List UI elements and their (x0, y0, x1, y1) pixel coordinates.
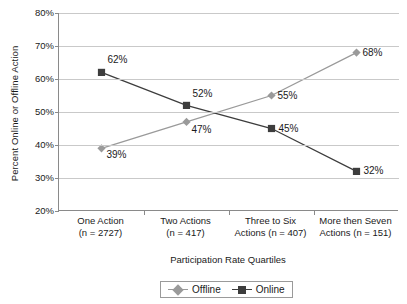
data-point-label: 52% (193, 88, 213, 99)
gridline (59, 13, 399, 14)
gridline (59, 79, 399, 80)
series-line-offline (102, 53, 357, 149)
x-category-label: One Action(n = 2727) (58, 215, 143, 251)
x-axis-category-labels: One Action(n = 2727)Two Actions(n = 417)… (58, 215, 398, 251)
y-tick-label: 30% (18, 173, 54, 183)
legend-marker (238, 286, 246, 294)
x-category-label-line1: Three to Six (245, 215, 296, 226)
y-tick-label: 70% (18, 41, 54, 51)
data-point-label: 32% (364, 165, 384, 176)
series-line-online (102, 72, 357, 171)
legend-entry-online[interactable]: Online (232, 284, 285, 295)
marker-diamond (352, 49, 360, 57)
legend-label: Online (256, 284, 285, 295)
y-tick-label: 80% (18, 8, 54, 18)
legend-swatch-diamond-icon (168, 285, 188, 295)
gridline (59, 112, 399, 113)
y-tickmark (55, 112, 59, 113)
y-tick-label: 20% (18, 206, 54, 216)
marker-square (268, 125, 275, 132)
data-point-label: 39% (107, 149, 127, 160)
gridline (59, 178, 399, 179)
legend-marker (172, 284, 183, 295)
y-tick-label: 60% (18, 74, 54, 84)
x-category-label-line2: Actions (n = 407) (228, 227, 313, 239)
x-category-label-line1: More then Seven (319, 215, 391, 226)
chart-legend: OfflineOnline (160, 281, 293, 298)
legend-swatch-square-icon (232, 285, 252, 295)
x-category-label-line1: One Action (77, 215, 123, 226)
legend-label: Offline (192, 284, 221, 295)
y-axis-tick-labels: 20%30%40%50%60%70%80% (16, 0, 54, 304)
y-tickmark (55, 145, 59, 146)
y-tick-label: 50% (18, 107, 54, 117)
x-category-label-line2: (n = 417) (143, 227, 228, 239)
marker-square (353, 168, 360, 175)
y-tickmark (55, 79, 59, 80)
y-tickmark (55, 13, 59, 14)
y-tickmark (55, 46, 59, 47)
x-axis-title: Participation Rate Quartiles (58, 254, 398, 265)
data-point-label: 55% (278, 90, 298, 101)
marker-square (183, 102, 190, 109)
marker-diamond (267, 91, 275, 99)
gridline (59, 145, 399, 146)
data-point-label: 47% (192, 124, 212, 135)
x-category-label: Two Actions(n = 417) (143, 215, 228, 251)
x-category-label-line2: (n = 2727) (58, 227, 143, 239)
data-point-label: 45% (279, 123, 299, 134)
data-point-label: 62% (108, 54, 128, 65)
x-category-label-line2: Actions (n = 151) (313, 227, 398, 239)
x-category-label-line1: Two Actions (160, 215, 211, 226)
data-point-label: 68% (363, 47, 383, 58)
y-tickmark (55, 211, 59, 212)
plot-area (58, 13, 398, 211)
marker-diamond (182, 118, 190, 126)
line-chart: Percent Online or Offline Action 20%30%4… (0, 0, 407, 304)
gridline (59, 46, 399, 47)
marker-square (98, 69, 105, 76)
x-category-label: More then SevenActions (n = 151) (313, 215, 398, 251)
x-category-label: Three to SixActions (n = 407) (228, 215, 313, 251)
y-tick-label: 40% (18, 140, 54, 150)
legend-entry-offline[interactable]: Offline (168, 284, 221, 295)
y-tickmark (55, 178, 59, 179)
